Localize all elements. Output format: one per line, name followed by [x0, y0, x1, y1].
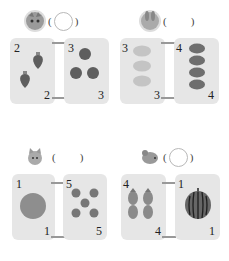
open-paren: ( — [163, 151, 167, 163]
plum-icon — [188, 67, 206, 78]
connector-top — [162, 182, 176, 184]
exercise-4: ( ) 4 4 1 1 — [115, 130, 229, 260]
pineapple-icon — [142, 188, 154, 220]
left-card: 3 3 — [120, 38, 165, 104]
connector-bottom — [162, 236, 176, 238]
count-top: 3 — [122, 42, 128, 54]
answer-blank[interactable] — [169, 11, 189, 31]
melon-slice-icon — [132, 75, 152, 87]
count-bottom: 1 — [44, 225, 50, 237]
count-top: 1 — [16, 178, 22, 190]
cat-icon — [24, 10, 46, 32]
apple-icon — [78, 46, 92, 60]
close-paren: ) — [75, 15, 79, 27]
left-card: 4 4 — [121, 174, 166, 240]
rabbit-icon — [139, 10, 161, 32]
count-bottom: 5 — [96, 225, 102, 237]
exercise-4-header: ( ) — [139, 145, 195, 169]
answer-blank[interactable] — [58, 147, 78, 167]
watermelon-icon — [183, 188, 213, 220]
open-paren: ( — [163, 15, 167, 27]
plum-icon — [188, 79, 206, 90]
melon-slice-icon — [132, 60, 152, 72]
exercise-3: ( ) 1 1 5 5 — [0, 130, 114, 260]
exercise-3-header: ( ) — [24, 145, 85, 169]
plum-icon — [188, 43, 206, 54]
apple-icon — [69, 65, 83, 79]
count-bottom: 4 — [155, 225, 161, 237]
exercise-1: ( ) 2 2 3 3 — [0, 0, 114, 130]
right-card: 1 1 — [175, 174, 220, 240]
open-paren: ( — [52, 151, 56, 163]
count-top: 2 — [14, 42, 20, 54]
cantaloupe-icon — [19, 192, 47, 220]
count-bottom: 3 — [154, 89, 160, 101]
connector-top — [161, 42, 175, 44]
count-top: 3 — [68, 42, 74, 54]
right-card: 4 4 — [174, 38, 219, 104]
strawberry-icon — [30, 52, 46, 70]
strawberry-icon — [17, 71, 33, 89]
close-paren: ) — [190, 151, 194, 163]
apple-icon — [86, 65, 100, 79]
answer-circle[interactable] — [54, 12, 73, 31]
exercise-2: ( ) 3 3 4 4 — [115, 0, 229, 130]
count-bottom: 1 — [209, 225, 215, 237]
exercise-2-header: ( ) — [139, 9, 196, 33]
left-card: 1 1 — [12, 174, 55, 240]
count-bottom: 2 — [44, 89, 50, 101]
plum-icon — [188, 55, 206, 66]
open-paren: ( — [48, 15, 52, 27]
connector-bottom — [161, 97, 175, 99]
count-bottom: 4 — [208, 89, 214, 101]
melon-slice-icon — [132, 45, 152, 57]
pineapple-icon — [127, 188, 139, 220]
count-bottom: 3 — [98, 89, 104, 101]
count-top: 4 — [176, 42, 182, 54]
left-card: 2 2 — [10, 38, 55, 104]
close-paren: ) — [191, 15, 195, 27]
close-paren: ) — [80, 151, 84, 163]
exercise-1-header: ( ) — [24, 9, 80, 33]
kitten-icon — [24, 146, 46, 168]
right-card: 3 3 — [64, 38, 109, 104]
answer-circle[interactable] — [169, 148, 188, 167]
mouse-icon — [139, 146, 161, 168]
right-card: 5 5 — [63, 174, 107, 240]
cherry-group-icon — [71, 188, 101, 220]
